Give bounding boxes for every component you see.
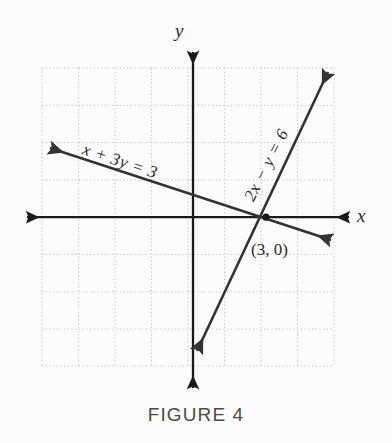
coordinate-plane-graph	[0, 0, 392, 443]
y-axis-label: y	[175, 20, 183, 42]
intersection-point-marker	[262, 214, 269, 221]
x-axis-label: x	[357, 205, 365, 227]
line-2x-minus-y-equals-6	[197, 72, 328, 351]
intersection-point-label: (3, 0)	[251, 240, 288, 260]
figure-container: y x x + 3y = 3 2x − y = 6 (3, 0) FIGURE …	[0, 0, 392, 443]
figure-caption: FIGURE 4	[0, 404, 392, 426]
